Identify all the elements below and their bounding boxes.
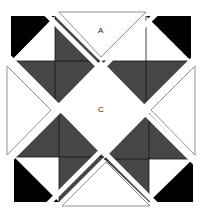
label-a: A xyxy=(98,26,104,35)
quilt-block-diagram: A C xyxy=(0,0,202,214)
label-c: C xyxy=(98,105,104,114)
